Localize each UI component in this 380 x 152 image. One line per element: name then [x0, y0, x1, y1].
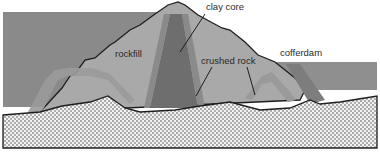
dam-illustration: [0, 0, 380, 152]
dam-cross-section-diagram: clay core rockfill crushed rock cofferda…: [0, 0, 380, 152]
label-clay-core: clay core: [206, 2, 244, 12]
label-crushed-rock: crushed rock: [201, 56, 255, 66]
label-cofferdam: cofferdam: [280, 48, 322, 58]
label-rockfill: rockfill: [115, 49, 142, 59]
